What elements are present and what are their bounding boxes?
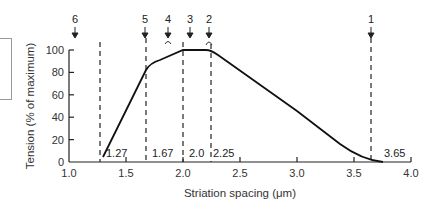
x-tick-3-5: 3.5 [346,167,361,179]
y-tick-100: 100 [46,44,64,56]
marker-4-label: 4 [165,13,171,25]
x-tick-1-0: 1.0 [61,167,76,179]
x-tick-3-0: 3.0 [289,167,304,179]
y-tick-60: 60 [52,89,64,101]
tension-length-chart: 0 20 40 60 80 100 1.0 1.5 2.0 2.5 3.0 3.… [0,0,441,202]
sarcomere-markers: 6 5 4 3 2 1 [72,13,374,45]
ref-label-2-25: 2.25 [213,147,234,159]
x-tick-1-5: 1.5 [118,167,133,179]
marker-6-label: 6 [72,13,78,25]
ref-label-3-65: 3.65 [384,147,405,159]
marker-3-label: 3 [187,13,193,25]
y-axis [69,50,74,162]
x-axis-title: Striation spacing (μm) [184,187,296,199]
reference-lines [100,38,371,162]
x-tick-2-0: 2.0 [175,167,190,179]
y-axis-title: Tension (% of maximum) [24,43,36,170]
y-tick-40: 40 [52,111,64,123]
tension-curve [103,50,383,162]
x-tick-4-0: 4.0 [403,167,418,179]
y-tick-20: 20 [52,134,64,146]
marker-5-label: 5 [142,13,148,25]
ref-label-2-0: 2.0 [189,147,204,159]
x-tick-2-5: 2.5 [232,167,247,179]
marker-2-label: 2 [206,13,212,25]
y-tick-80: 80 [52,66,64,78]
marker-1-label: 1 [368,13,374,25]
ref-label-1-27: 1.27 [106,147,127,159]
ref-label-1-67: 1.67 [152,147,173,159]
